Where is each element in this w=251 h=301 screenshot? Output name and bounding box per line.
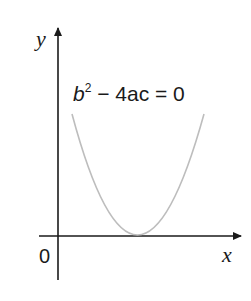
equation-label: b2 − 4ac = 0: [73, 81, 185, 105]
x-axis-label: x: [221, 242, 232, 267]
y-axis-label: y: [34, 26, 46, 51]
parabola-diagram: y x 0 b2 − 4ac = 0: [0, 0, 251, 301]
equation-rest: − 4ac = 0: [91, 82, 184, 105]
parabola-curve: [72, 114, 204, 235]
origin-label: 0: [39, 245, 50, 267]
equation-b: b: [73, 82, 85, 105]
